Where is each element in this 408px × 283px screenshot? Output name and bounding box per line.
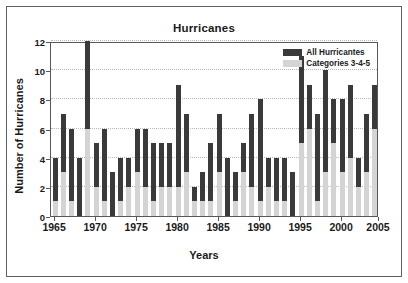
x-tick-label: 2005 [366,221,389,233]
bar-group [53,158,58,216]
bar-segment-categories-345 [135,172,140,216]
bar-segment-categories-345 [118,201,123,216]
legend-swatch-icon [283,60,302,67]
x-tick-label: 1990 [247,221,270,233]
y-tick-label: 2 [40,182,45,193]
x-tick-mark [136,217,137,221]
x-tick-label: 1980 [165,221,188,233]
bar-segment-categories-345 [176,187,181,216]
bar-group [225,158,230,216]
bar-group [290,172,295,216]
legend-swatch-icon [283,49,302,56]
bar-segment-categories-345 [323,172,328,216]
y-axis-ticks: 024681012 [0,42,50,217]
bar-group [315,114,320,216]
bar-group [167,143,172,216]
bar-group [356,158,361,216]
x-tick-label: 1965 [42,221,65,233]
bar-group [282,158,287,216]
bar-group [118,158,123,216]
bar-segment-categories-345 [348,158,353,216]
x-tick-label: 1985 [206,221,229,233]
bar-segment-all-hurricanes [77,158,82,216]
bar-segment-all-hurricanes [225,158,230,216]
bar-segment-categories-345 [266,187,271,216]
bar-group [110,172,115,216]
x-tick-mark [341,217,342,221]
bar-segment-categories-345 [167,187,172,216]
chart-title: Hurricanes [0,22,408,34]
bar-segment-categories-345 [126,187,131,216]
x-axis-label: Years [0,249,408,261]
x-tick-mark [259,217,260,221]
legend-label: All Hurricantes [306,48,364,57]
bar-segment-categories-345 [258,201,263,216]
x-tick-mark [218,217,219,221]
bar-group [217,114,222,216]
bar-segment-categories-345 [233,201,238,216]
y-tick-label: 8 [40,95,45,106]
gridline [51,40,377,41]
legend-entry[interactable]: All Hurricantes [283,47,370,57]
bar-group [102,129,107,217]
x-tick-label: 2000 [329,221,352,233]
x-tick-mark [95,217,96,221]
bar-group [192,187,197,216]
bar-segment-categories-345 [85,129,90,217]
x-tick-mark [54,217,55,221]
bar-segment-all-hurricanes [290,172,295,216]
bar-group [258,99,263,216]
bar-group [266,158,271,216]
bar-group [340,99,345,216]
bar-group [69,129,74,217]
bar-group [176,85,181,216]
bar-segment-categories-345 [299,143,304,216]
bar-group [372,85,377,216]
y-tick-label: 6 [40,124,45,135]
bar-segment-categories-345 [217,172,222,216]
bar-group [331,99,336,216]
bar-segment-all-hurricanes [110,172,115,216]
bar-group [135,129,140,217]
bar-group [323,70,328,216]
bar-group [94,143,99,216]
bar-segment-categories-345 [241,172,246,216]
bar-segment-all-hurricanes [258,99,263,216]
bar-segment-categories-345 [159,187,164,216]
bar-group [348,85,353,216]
x-tick-label: 1995 [288,221,311,233]
bar-segment-categories-345 [53,201,58,216]
bar-segment-categories-345 [249,187,254,216]
y-tick-label: 12 [34,37,45,48]
x-tick-mark [378,217,379,221]
bar-segment-categories-345 [331,143,336,216]
bar-group [233,172,238,216]
bar-group [61,114,66,216]
bar-segment-categories-345 [340,172,345,216]
bar-group [159,143,164,216]
x-tick-mark [177,217,178,221]
bar-segment-categories-345 [282,201,287,216]
bar-segment-categories-345 [192,201,197,216]
bar-segment-categories-345 [208,201,213,216]
bar-segment-categories-345 [315,201,320,216]
bar-segment-categories-345 [69,201,74,216]
bar-group [151,143,156,216]
bar-group [77,158,82,216]
bar-group [249,114,254,216]
bar-group [184,114,189,216]
x-tick-label: 1975 [124,221,147,233]
bar-segment-categories-345 [61,172,66,216]
legend-label: Categories 3-4-5 [306,59,370,68]
bar-segment-categories-345 [200,201,205,216]
legend-entry[interactable]: Categories 3-4-5 [283,58,370,68]
bar-group [274,158,279,216]
bar-group [143,129,148,217]
x-tick-mark [300,217,301,221]
bar-segment-categories-345 [102,201,107,216]
chart-legend: All HurricantesCategories 3-4-5 [280,46,373,70]
bar-segment-categories-345 [274,201,279,216]
bar-segment-categories-345 [184,172,189,216]
bar-group [364,114,369,216]
bar-group [299,56,304,216]
